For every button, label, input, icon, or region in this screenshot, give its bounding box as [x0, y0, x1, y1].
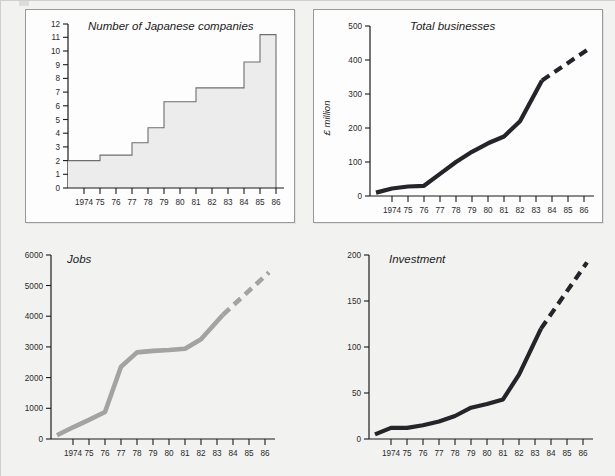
x-tick-84: 84: [546, 449, 556, 458]
y-tick-2000: 2000: [25, 374, 44, 383]
x-tick-84: 84: [239, 198, 249, 207]
x-axis-investment: 1974 75 76 77 78 79 80 81 82 83 84 85 86: [369, 439, 593, 458]
x-tick-77: 77: [435, 206, 445, 215]
x-axis-total-businesses: 1974 75 76 77 78 79 80 81 82 83 84 85 86: [370, 196, 594, 215]
y-tick-11: 11: [52, 33, 61, 42]
y-tick-3000: 3000: [25, 343, 44, 352]
x-tick-83: 83: [530, 449, 540, 458]
y-tick-200: 200: [347, 251, 361, 260]
x-tick-1974: 1974: [75, 198, 94, 207]
y-axis-japanese-companies: 0 1 2 3 4 5 6 7 8 9 10 11 12: [51, 20, 68, 193]
x-tick-82: 82: [207, 198, 217, 207]
x-tick-85: 85: [244, 449, 254, 458]
y-tick-6: 6: [55, 102, 60, 111]
chart-title-investment: Investment: [389, 253, 446, 265]
y-tick-1: 1: [55, 170, 60, 179]
x-tick-82: 82: [196, 449, 206, 458]
chart-svg-total-businesses: Total businesses £ million 0 100 200 300…: [314, 10, 600, 220]
x-tick-77: 77: [434, 449, 444, 458]
step-series-japanese-companies: [68, 35, 276, 188]
chart-title-total-businesses: Total businesses: [410, 20, 495, 32]
line-series-total-businesses: [376, 49, 588, 192]
x-tick-78: 78: [132, 449, 142, 458]
x-tick-83: 83: [212, 449, 222, 458]
y-tick-3: 3: [55, 143, 60, 152]
x-tick-84: 84: [228, 449, 238, 458]
x-tick-80: 80: [164, 449, 174, 458]
x-tick-81: 81: [498, 449, 508, 458]
x-tick-85: 85: [562, 449, 572, 458]
x-tick-82: 82: [515, 206, 525, 215]
x-tick-80: 80: [175, 198, 185, 207]
y-tick-100: 100: [348, 158, 362, 167]
y-tick-150: 150: [347, 297, 361, 306]
x-tick-79: 79: [466, 449, 476, 458]
x-tick-86: 86: [578, 449, 588, 458]
x-axis-jobs: 1974 75 76 77 78 79 80 81 82 83 84 85 86: [51, 439, 275, 458]
x-tick-86: 86: [271, 198, 281, 207]
chart-panel-investment: Investment 0 50 100 150 200: [321, 241, 611, 473]
y-tick-0: 0: [38, 435, 43, 444]
chart-title-jobs: Jobs: [66, 253, 92, 265]
y-tick-9: 9: [55, 61, 60, 70]
y-tick-5: 5: [55, 116, 60, 125]
x-tick-79: 79: [148, 449, 158, 458]
x-tick-76: 76: [419, 206, 429, 215]
chart-panel-total-businesses: Total businesses £ million 0 100 200 300…: [313, 9, 603, 223]
y-tick-200: 200: [348, 124, 362, 133]
chart-svg-investment: Investment 0 50 100 150 200: [321, 241, 611, 473]
x-tick-81: 81: [191, 198, 201, 207]
x-tick-83: 83: [531, 206, 541, 215]
y-tick-7: 7: [55, 88, 60, 97]
chart-svg-japanese-companies: Number of Japanese companies: [26, 10, 292, 220]
x-tick-85: 85: [255, 198, 265, 207]
y-tick-500: 500: [348, 22, 362, 31]
x-tick-78: 78: [451, 206, 461, 215]
y-tick-300: 300: [348, 90, 362, 99]
x-tick-78: 78: [450, 449, 460, 458]
y-tick-4: 4: [55, 129, 60, 138]
y-tick-100: 100: [347, 343, 361, 352]
x-tick-80: 80: [483, 206, 493, 215]
x-tick-76: 76: [418, 449, 428, 458]
x-tick-1974: 1974: [383, 206, 402, 215]
y-tick-1000: 1000: [25, 404, 44, 413]
line-series-investment: [375, 262, 587, 434]
x-tick-84: 84: [547, 206, 557, 215]
page-corner-mark: [19, 1, 29, 6]
chart-title-japanese-companies: Number of Japanese companies: [88, 20, 254, 32]
x-tick-85: 85: [563, 206, 573, 215]
y-axis-jobs: 0 1000 2000 3000 4000 5000 6000: [25, 251, 51, 444]
x-tick-1974: 1974: [64, 449, 83, 458]
x-tick-83: 83: [223, 198, 233, 207]
x-tick-76: 76: [100, 449, 110, 458]
y-tick-0: 0: [356, 435, 361, 444]
x-tick-77: 77: [116, 449, 126, 458]
page-root: Number of Japanese companies: [0, 0, 615, 476]
x-tick-75: 75: [402, 449, 412, 458]
x-tick-82: 82: [514, 449, 524, 458]
x-tick-80: 80: [482, 449, 492, 458]
x-tick-76: 76: [111, 198, 121, 207]
y-tick-0: 0: [357, 192, 362, 201]
x-tick-1974: 1974: [382, 449, 401, 458]
chart-panel-jobs: Jobs 0 1000 2000 3000 4000 5000: [9, 241, 309, 473]
x-tick-86: 86: [260, 449, 270, 458]
x-tick-86: 86: [579, 206, 589, 215]
y-tick-2: 2: [55, 157, 60, 166]
y-tick-5000: 5000: [25, 282, 44, 291]
y-tick-12: 12: [51, 20, 61, 29]
chart-panel-japanese-companies: Number of Japanese companies: [25, 9, 295, 223]
chart-svg-jobs: Jobs 0 1000 2000 3000 4000 5000: [9, 241, 309, 473]
y-tick-400: 400: [348, 56, 362, 65]
x-axis-japanese-companies: 1974 75 76 77 78 79 80 81 82 83 84 85 86: [68, 188, 284, 207]
x-tick-75: 75: [84, 449, 94, 458]
x-tick-78: 78: [143, 198, 153, 207]
y-tick-6000: 6000: [25, 251, 44, 260]
x-tick-77: 77: [127, 198, 137, 207]
x-tick-75: 75: [95, 198, 105, 207]
y-tick-0: 0: [55, 184, 60, 193]
x-tick-79: 79: [467, 206, 477, 215]
y-tick-10: 10: [51, 47, 61, 56]
x-tick-81: 81: [180, 449, 190, 458]
